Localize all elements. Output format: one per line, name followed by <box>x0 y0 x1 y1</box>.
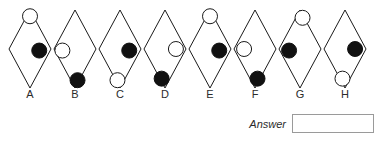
option-label-d: D <box>153 88 177 100</box>
option-label-b: B <box>63 88 87 100</box>
open-circle <box>23 9 38 24</box>
option-h[interactable] <box>324 10 366 88</box>
filled-circle <box>282 43 297 58</box>
option-f[interactable] <box>234 10 276 88</box>
open-circle <box>168 42 183 57</box>
option-label-e: E <box>198 88 222 100</box>
filled-circle <box>212 43 227 58</box>
open-circle <box>295 10 310 25</box>
option-labels-row: ABCDEFGH <box>0 88 392 108</box>
option-e[interactable] <box>189 9 231 88</box>
filled-circle <box>250 71 265 86</box>
option-c[interactable] <box>99 10 141 88</box>
option-label-c: C <box>108 88 132 100</box>
option-d[interactable] <box>144 10 186 88</box>
option-label-f: F <box>243 88 267 100</box>
answer-label: Answer <box>249 118 286 130</box>
open-circle <box>110 73 125 88</box>
filled-circle <box>154 71 169 86</box>
answer-input[interactable] <box>292 114 374 133</box>
option-g[interactable] <box>279 10 321 88</box>
open-circle <box>203 9 218 24</box>
option-b[interactable] <box>54 10 96 88</box>
filled-circle <box>122 43 137 58</box>
shape-sequence-puzzle: ABCDEFGH Answer <box>0 0 392 142</box>
filled-circle <box>32 43 47 58</box>
diamond-options-row <box>0 0 392 100</box>
option-label-g: G <box>288 88 312 100</box>
open-circle <box>335 71 350 86</box>
option-label-a: A <box>18 88 42 100</box>
open-circle <box>55 43 70 58</box>
filled-circle <box>348 42 363 57</box>
option-a[interactable] <box>9 9 51 88</box>
filled-circle <box>70 73 85 88</box>
answer-row: Answer <box>0 114 392 140</box>
option-label-h: H <box>333 88 357 100</box>
open-circle <box>237 42 252 57</box>
